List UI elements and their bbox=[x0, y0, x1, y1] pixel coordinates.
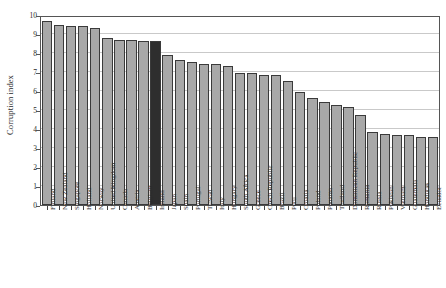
x-axis-category-label: Dominican Republic bbox=[352, 152, 359, 210]
x-axis-category-label: Hungary bbox=[231, 186, 238, 211]
x-axis-category-label: South Africa bbox=[243, 174, 250, 210]
x-axis-category-label: Spain bbox=[183, 194, 190, 210]
x-axis-category-label: Japan bbox=[171, 194, 178, 210]
bar bbox=[42, 21, 52, 205]
x-axis-category-label: Italy bbox=[219, 197, 226, 210]
x-axis-category-label: Ireland bbox=[159, 190, 166, 210]
bar bbox=[90, 28, 100, 205]
x-axis-category-label: Panama bbox=[327, 188, 334, 210]
x-axis-category-label: Thailand bbox=[339, 185, 346, 210]
x-axis-category-label: Austria bbox=[134, 189, 141, 210]
x-axis-category-label: Holland bbox=[86, 187, 93, 210]
x-axis-category-label: Russia bbox=[376, 191, 383, 210]
bar bbox=[138, 41, 148, 205]
bar bbox=[175, 60, 185, 205]
x-axis-category-label: Portugal bbox=[195, 186, 202, 210]
x-axis-category-label: Czech Republic bbox=[267, 165, 274, 210]
x-axis-category-label: Taiwan bbox=[207, 189, 214, 210]
bar bbox=[187, 62, 197, 205]
x-axis-category-label: Pakistan bbox=[388, 186, 395, 210]
bar-series bbox=[41, 17, 439, 205]
x-axis-category-label: Vietnam bbox=[400, 186, 407, 210]
x-axis-category-label: Brazil bbox=[279, 193, 286, 210]
y-axis-tick-mark bbox=[36, 206, 40, 207]
x-axis-category-label: Romania bbox=[364, 185, 371, 210]
x-axis-category-label: Croatia bbox=[303, 189, 310, 210]
x-axis-category-label: Greece bbox=[255, 190, 262, 210]
bar bbox=[283, 81, 293, 205]
x-axis-category-label: Honduras bbox=[424, 183, 431, 210]
bar bbox=[150, 41, 160, 205]
bar bbox=[78, 26, 88, 205]
bar bbox=[199, 64, 209, 205]
x-axis-category-label: Peru bbox=[291, 197, 298, 210]
x-axis-category-label: Belgium bbox=[147, 186, 154, 210]
x-axis-category-label: Ecuador bbox=[436, 187, 443, 210]
x-axis-category-label: Finland bbox=[50, 189, 57, 210]
x-axis-category-labels: FinlandNew ZealandSingaporeHollandNorway… bbox=[41, 210, 439, 286]
bar bbox=[211, 64, 221, 205]
y-axis-tick-marks bbox=[0, 16, 40, 206]
bar bbox=[162, 55, 172, 205]
x-axis-category-label: United Kingdom bbox=[110, 163, 117, 210]
x-axis-category-label: Guatemala bbox=[412, 180, 419, 210]
x-axis-category-label: Poland bbox=[315, 191, 322, 210]
x-axis-category-label: Norway bbox=[98, 187, 105, 210]
x-axis-category-label: Canada bbox=[122, 189, 129, 210]
corruption-index-bar-chart: Corruption index 012345678910 FinlandNew… bbox=[0, 0, 446, 288]
bar bbox=[126, 40, 136, 205]
x-axis-category-label: Singapore bbox=[74, 182, 81, 210]
x-axis-category-label: New Zealand bbox=[62, 172, 69, 210]
